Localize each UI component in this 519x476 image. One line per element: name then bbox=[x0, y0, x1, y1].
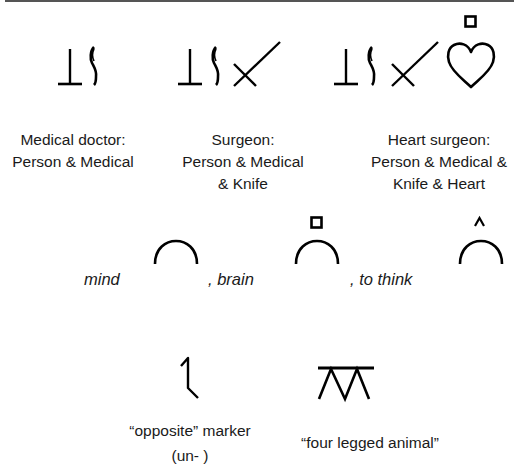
word-mind: mind bbox=[84, 270, 120, 289]
group-title: Medical doctor: bbox=[0, 129, 146, 151]
label-heart-surgeon: Heart surgeon: Person & Medical & Knife … bbox=[360, 129, 518, 195]
word-to-think: , to think bbox=[350, 270, 412, 289]
four-legged-animal-icon bbox=[317, 365, 375, 401]
item-line: “four legged animal” bbox=[290, 432, 450, 454]
group-title: Surgeon: bbox=[168, 129, 318, 151]
item-line: “opposite” marker bbox=[110, 420, 270, 442]
knife-icon bbox=[390, 40, 440, 88]
label-four-legged-animal: “four legged animal” bbox=[290, 432, 450, 454]
top-rule bbox=[5, 0, 514, 2]
group-line: Person & Medical bbox=[168, 151, 318, 173]
group-line: Knife & Heart bbox=[360, 173, 518, 195]
knife-icon bbox=[232, 40, 282, 88]
square-indicator-icon bbox=[310, 216, 323, 229]
medical-icon bbox=[366, 45, 380, 87]
caret-indicator-icon bbox=[474, 216, 485, 227]
mind-arc-icon bbox=[293, 238, 341, 266]
figure-caption-cutoff bbox=[0, 466, 519, 476]
person-icon bbox=[57, 47, 83, 87]
label-surgeon: Surgeon: Person & Medical & Knife bbox=[168, 129, 318, 195]
group-line: Person & Medical bbox=[0, 151, 146, 173]
person-icon bbox=[333, 47, 359, 87]
item-line: (un- ) bbox=[110, 445, 270, 467]
label-opposite-marker: “opposite” marker (un- ) bbox=[110, 420, 270, 467]
person-icon bbox=[177, 47, 203, 87]
group-line: Person & Medical & bbox=[360, 151, 518, 173]
square-indicator-icon bbox=[464, 15, 477, 28]
medical-icon bbox=[210, 45, 224, 87]
label-medical-doctor: Medical doctor: Person & Medical bbox=[0, 129, 146, 173]
medical-icon bbox=[88, 45, 102, 87]
mind-arc-icon bbox=[152, 238, 200, 266]
group-line: & Knife bbox=[168, 173, 318, 195]
opposite-marker-icon bbox=[178, 356, 202, 400]
heart-icon bbox=[446, 40, 496, 90]
mind-arc-icon bbox=[457, 238, 505, 266]
word-brain: , brain bbox=[208, 270, 254, 289]
group-title: Heart surgeon: bbox=[360, 129, 518, 151]
